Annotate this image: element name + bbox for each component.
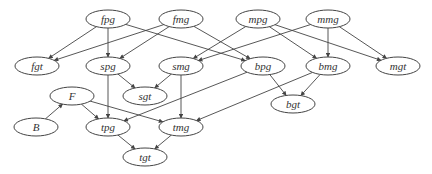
node-layer: fpgfmgmpgmmgfgtspgsmgbpgbmgmgtFsgtbgtBtp… <box>14 10 420 166</box>
node-tgt: tgt <box>123 148 167 166</box>
edge-mpg-to-bmg <box>269 27 316 59</box>
node-label: B <box>33 121 40 133</box>
edge-bmg-to-bgt <box>301 74 320 95</box>
node-label: mmg <box>317 13 339 25</box>
edge-spg-to-sgt <box>118 74 135 88</box>
node-fmg: fmg <box>159 10 203 28</box>
edge-fmg-to-fgt <box>54 25 164 61</box>
edge-mmg-to-smg <box>198 25 310 61</box>
edge-tpg-to-tgt <box>118 135 135 149</box>
node-smg: smg <box>159 57 203 75</box>
node-mpg: mpg <box>236 10 280 28</box>
node-fpg: fpg <box>86 10 130 28</box>
node-label: spg <box>100 60 116 72</box>
node-label: mgt <box>390 60 407 72</box>
node-label: smg <box>172 60 190 72</box>
directed-graph-diagram: fpgfmgmpgmmgfgtspgsmgbpgbmgmgtFsgtbgtBtp… <box>0 0 432 174</box>
node-label: tpg <box>101 121 116 133</box>
node-label: fpg <box>101 13 116 25</box>
node-spg: spg <box>86 57 130 75</box>
node-label: tgt <box>139 151 152 163</box>
edge-bpg-to-bgt <box>270 75 286 96</box>
node-tmg: tmg <box>159 118 203 136</box>
edge-fpg-to-bpg <box>126 24 246 60</box>
node-label: F <box>68 90 76 102</box>
edge-smg-to-sgt <box>155 74 172 88</box>
node-B: B <box>14 118 58 136</box>
node-label: fmg <box>173 13 190 25</box>
node-F: F <box>50 87 94 105</box>
node-mgt: mgt <box>376 57 420 75</box>
edge-mmg-to-mgt <box>339 27 386 59</box>
node-label: bgt <box>286 98 301 110</box>
node-fgt: fgt <box>15 57 59 75</box>
node-label: fgt <box>31 60 44 72</box>
node-label: bmg <box>319 60 338 72</box>
node-label: sgt <box>139 90 153 102</box>
edge-F-to-tpg <box>81 104 98 119</box>
node-tpg: tpg <box>86 118 130 136</box>
edge-tmg-to-tgt <box>155 135 172 149</box>
node-bmg: bmg <box>306 57 350 75</box>
node-mmg: mmg <box>306 10 350 28</box>
node-label: mpg <box>249 13 268 25</box>
node-label: tmg <box>173 121 190 133</box>
node-bpg: bpg <box>241 57 285 75</box>
node-sgt: sgt <box>123 87 167 105</box>
edge-B-to-F <box>45 104 62 119</box>
node-label: bpg <box>255 60 272 72</box>
node-bgt: bgt <box>271 95 315 113</box>
edge-fpg-to-fgt <box>49 27 97 59</box>
